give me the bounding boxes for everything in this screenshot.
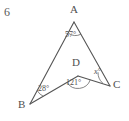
vertex-label-C: C [113,79,120,90]
geometry-figure: 6 A B C D 57° 28° 121° x° [0,0,129,121]
vertex-label-D: D [72,57,80,68]
vertex-label-A: A [70,4,78,15]
angle-label-A: 57° [65,31,76,39]
vertex-label-B: B [18,99,25,110]
angle-label-B: 28° [38,85,49,93]
angle-label-C-unknown: x° [94,68,101,76]
angle-label-D: 121° [66,79,81,87]
